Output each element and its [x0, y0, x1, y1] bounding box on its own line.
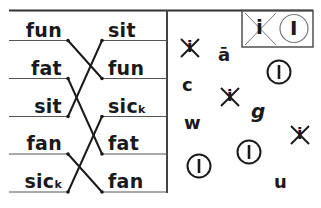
worksheet: funfatsitfansick sitfunsickfatfan i I iā…: [0, 0, 321, 208]
word-text: sit: [108, 19, 136, 41]
match-dot: [66, 115, 70, 119]
word-text: fan: [108, 170, 144, 192]
crossed-i-glyph: i: [227, 88, 232, 104]
right-word-fan: fan: [108, 171, 144, 191]
letter-c: c: [182, 76, 193, 94]
match-dot: [100, 190, 104, 194]
legend-circled-I-glyph: I: [290, 18, 297, 38]
letter-g: g: [251, 101, 265, 121]
word-text: fan: [26, 132, 62, 154]
match-line[interactable]: [68, 154, 102, 192]
letter-u: u: [274, 173, 287, 191]
word-text: sit: [34, 95, 62, 117]
left-word-sit: sit: [34, 96, 62, 116]
scatter-symbols: [181, 39, 309, 178]
legend-crossed-i-glyph: i: [256, 17, 263, 37]
right-word-sit: sit: [108, 20, 136, 40]
word-subscript: k: [138, 103, 146, 116]
match-line[interactable]: [68, 79, 102, 155]
word-text: fat: [31, 57, 62, 79]
left-word-sick: sick: [24, 171, 62, 195]
match-dot: [66, 77, 70, 81]
match-dot: [66, 152, 70, 156]
match-dot: [100, 115, 104, 119]
left-word-fat: fat: [31, 58, 62, 78]
word-text: sic: [24, 170, 54, 192]
match-dot: [100, 152, 104, 156]
match-dot: [66, 39, 70, 43]
match-line[interactable]: [68, 41, 102, 79]
word-text: sic: [108, 95, 138, 117]
left-word-fun: fun: [26, 20, 62, 40]
crossed-i-glyph: i: [297, 126, 302, 142]
match-line[interactable]: [68, 117, 102, 193]
right-word-sick: sick: [108, 96, 146, 120]
crossed-i-glyph: i: [187, 39, 192, 55]
match-line[interactable]: [68, 41, 102, 117]
word-text: fat: [108, 132, 139, 154]
word-subscript: k: [54, 178, 62, 191]
legend-box: [242, 11, 313, 48]
match-dot: [66, 190, 70, 194]
match-dot: [100, 39, 104, 43]
match-connections: [66, 39, 104, 194]
letter-ā: ā: [218, 46, 230, 64]
word-text: fun: [26, 19, 62, 41]
right-word-fun: fun: [108, 58, 144, 78]
letter-w: w: [184, 114, 201, 132]
word-text: fun: [108, 57, 144, 79]
match-dot: [100, 77, 104, 81]
left-word-fan: fan: [26, 133, 62, 153]
right-word-fat: fat: [108, 133, 139, 153]
